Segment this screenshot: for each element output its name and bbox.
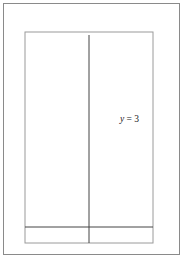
curve-label: y = 3 bbox=[119, 114, 139, 124]
chart: y = 3 bbox=[0, 0, 185, 270]
